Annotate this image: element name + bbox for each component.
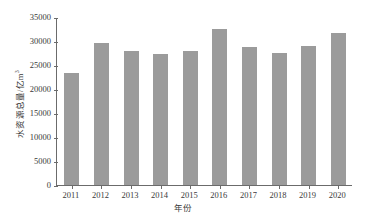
- y-tick-label: 10000: [30, 132, 51, 142]
- plot-area: 05000100001500020000250003000035000: [56, 18, 352, 186]
- y-tick-mark: [54, 186, 58, 187]
- y-axis-unit-exponent: 3: [14, 70, 20, 73]
- bar: [94, 43, 109, 185]
- y-tick-label: 20000: [30, 84, 51, 94]
- bar: [301, 46, 316, 185]
- x-tick-mark: [161, 186, 162, 190]
- bar: [242, 47, 257, 185]
- bar: [153, 54, 168, 185]
- bar: [331, 33, 346, 185]
- x-tick-mark: [309, 186, 310, 190]
- y-tick-label: 15000: [30, 108, 51, 118]
- bars-layer: [57, 18, 352, 185]
- y-axis-title-text: 水资源总量/亿m: [15, 73, 25, 138]
- y-axis-title: 水资源总量/亿m3: [13, 39, 25, 169]
- y-tick-label: 0: [47, 180, 51, 190]
- x-tick-mark: [279, 186, 280, 190]
- bar: [212, 29, 227, 185]
- x-tick-mark: [72, 186, 73, 190]
- bar: [183, 51, 198, 185]
- y-tick-label: 25000: [30, 60, 51, 70]
- x-axis-title: 年份: [0, 201, 366, 213]
- x-tick-mark: [338, 186, 339, 190]
- x-tick-mark: [101, 186, 102, 190]
- x-tick-mark: [190, 186, 191, 190]
- bar: [64, 73, 79, 185]
- x-tick-label: 2020: [317, 190, 357, 200]
- y-tick-label: 5000: [34, 156, 51, 166]
- y-tick-label: 35000: [30, 12, 51, 22]
- x-tick-mark: [249, 186, 250, 190]
- bar: [124, 51, 139, 185]
- x-tick-mark: [220, 186, 221, 190]
- bar: [272, 53, 287, 185]
- water-resources-bar-chart: 水资源总量/亿m3 050001000015000200002500030000…: [0, 0, 366, 221]
- y-tick-label: 30000: [30, 36, 51, 46]
- x-tick-mark: [131, 186, 132, 190]
